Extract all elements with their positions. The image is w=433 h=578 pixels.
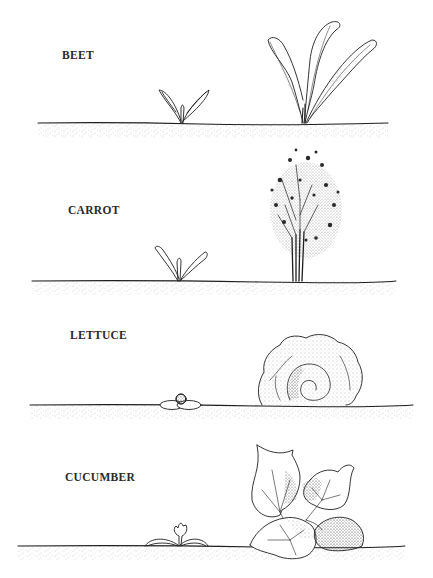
ground-line-carrot [32, 281, 396, 295]
cucumber-row [18, 445, 405, 560]
lettuce-mature-icon [258, 335, 362, 405]
lettuce-row [30, 335, 413, 419]
beet-seedling-icon [159, 90, 209, 123]
carrot-seedling-icon [155, 246, 207, 281]
carrot-mature-icon [270, 149, 342, 281]
beet-row [38, 22, 388, 137]
cucumber-seedling-icon [145, 523, 208, 546]
ground-line-beet [38, 123, 388, 137]
lettuce-seedling-icon [160, 394, 201, 410]
cucumber-mature-icon [250, 445, 364, 559]
beet-mature-icon [268, 22, 377, 123]
ground-line-lettuce [30, 405, 413, 419]
plant-illustration [0, 0, 433, 578]
carrot-row [32, 149, 396, 295]
